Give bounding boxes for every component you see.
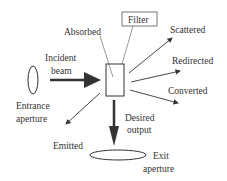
- redirected-label: Redirected: [172, 56, 213, 66]
- filter-interaction-diagram: Absorbed Filter Scattered Incident beam …: [0, 0, 227, 181]
- desired-output-arrow: [109, 100, 119, 146]
- redirected-arrow: [131, 71, 180, 82]
- filter-label: Filter: [128, 15, 149, 25]
- incident-beam-label-line2: beam: [51, 66, 72, 76]
- emitted-label: Emitted: [53, 141, 83, 151]
- desired-output-label-line1: Desired: [125, 113, 155, 123]
- scattered-arrow: [129, 38, 172, 73]
- exit-aperture-label-line1: Exit: [153, 151, 169, 161]
- exit-aperture-shape: [90, 150, 146, 160]
- desired-output-label-line2: output: [127, 125, 152, 135]
- incident-beam-label-line1: Incident: [45, 53, 76, 63]
- exit-aperture-label-line2: aperture: [143, 164, 174, 174]
- entrance-aperture-label-line2: aperture: [16, 114, 47, 124]
- filter-element: [106, 64, 124, 96]
- filter-leader-line: [122, 26, 133, 64]
- converted-label: Converted: [168, 86, 208, 96]
- emitted-arrow: [66, 93, 100, 124]
- entrance-aperture-label-line1: Entrance: [16, 101, 50, 111]
- scattered-label: Scattered: [170, 25, 206, 35]
- entrance-aperture-shape: [28, 66, 38, 94]
- absorbed-label: Absorbed: [64, 27, 101, 37]
